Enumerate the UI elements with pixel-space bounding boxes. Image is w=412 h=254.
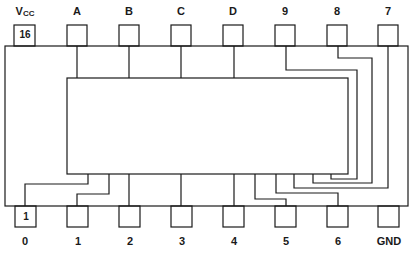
bottom-pin-tabs <box>15 206 399 227</box>
pin-label-3: 3 <box>162 235 202 247</box>
pin-label-1: 1 <box>58 235 98 247</box>
pin-number-16: 16 <box>15 29 35 40</box>
pin-label-d: D <box>213 5 253 17</box>
ic-pinout-diagram <box>0 0 412 254</box>
pin-label-5: 5 <box>266 235 306 247</box>
pin-label-gnd: GND <box>369 235 409 247</box>
pin-label-2: 2 <box>110 235 150 247</box>
top-pin-tabs <box>14 25 398 46</box>
pin-label-vcc: VCC <box>5 5 45 18</box>
inner-block <box>67 78 348 174</box>
pin-label-9: 9 <box>265 5 305 17</box>
pin-number-1: 1 <box>16 211 36 222</box>
pin-label-c: C <box>161 5 201 17</box>
pin-label-8: 8 <box>317 5 357 17</box>
pin-label-7: 7 <box>368 5 408 17</box>
bottom-wires <box>25 174 388 206</box>
pin-label-0: 0 <box>5 235 45 247</box>
pin-label-6: 6 <box>318 235 358 247</box>
pin-label-b: B <box>109 5 149 17</box>
pin-label-a: A <box>57 5 97 17</box>
top-wires <box>77 46 388 174</box>
pin-label-4: 4 <box>214 235 254 247</box>
